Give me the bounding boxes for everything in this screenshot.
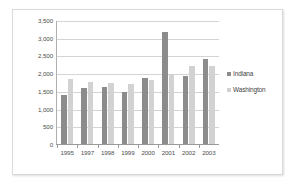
bar-washington-2002[interactable] [189, 66, 195, 145]
bar-washington-2000[interactable] [149, 80, 155, 145]
x-axis-tickmark [138, 145, 139, 148]
legend-swatch-icon [227, 72, 231, 76]
x-axis-tickmark [199, 145, 200, 148]
x-axis-tickmark [77, 145, 78, 148]
legend-label: Washington [233, 86, 266, 93]
bar-group [77, 21, 97, 145]
chart-container: 3,5003,0002,5002,0001,5001,0005000 19951… [12, 9, 283, 175]
y-axis-tick-label: 0 [25, 142, 53, 148]
bar-washington-1997[interactable] [88, 82, 94, 145]
bar-group [158, 21, 178, 145]
bar-washington-1999[interactable] [128, 84, 134, 145]
x-axis-tick-label: 2001 [158, 149, 178, 156]
x-axis-tick-label: 1995 [57, 149, 77, 156]
y-axis-tick-label: 3,000 [25, 36, 53, 42]
plot-area [57, 21, 219, 145]
bar-group [98, 21, 118, 145]
x-axis-tickmark [98, 145, 99, 148]
x-axis-tick-label: 2000 [138, 149, 158, 156]
legend-item-indiana[interactable]: Indiana [227, 70, 283, 77]
x-axis-tick-label: 1999 [118, 149, 138, 156]
y-axis: 3,5003,0002,5002,0001,5001,0005000 [25, 21, 53, 145]
y-axis-tick-label: 1,500 [25, 89, 53, 95]
y-axis-tick-label: 2,500 [25, 53, 53, 59]
x-axis: 19951997199819992000200120022003 [57, 149, 219, 156]
bars-layer [57, 21, 219, 145]
x-axis-tickmark [158, 145, 159, 148]
bar-indiana-1998[interactable] [102, 87, 108, 145]
legend-label: Indiana [233, 70, 253, 77]
y-axis-tick-label: 1,000 [25, 107, 53, 113]
bar-indiana-2002[interactable] [183, 76, 189, 145]
bar-indiana-2003[interactable] [203, 59, 209, 145]
chart-plot-wrapper: 3,5003,0002,5002,0001,5001,0005000 19951… [13, 10, 284, 176]
x-axis-tick-label: 1998 [98, 149, 118, 156]
bar-washington-1995[interactable] [68, 79, 74, 145]
bar-group [138, 21, 158, 145]
bar-washington-1998[interactable] [108, 83, 114, 145]
bar-group [199, 21, 219, 145]
y-axis-tick-label: 2,000 [25, 71, 53, 77]
bar-group [179, 21, 199, 145]
legend-item-washington[interactable]: Washington [227, 86, 283, 93]
x-axis-tickmark [118, 145, 119, 148]
bar-indiana-1997[interactable] [81, 88, 87, 145]
bar-indiana-1999[interactable] [122, 92, 128, 145]
bar-group [57, 21, 77, 145]
x-axis-tick-label: 1997 [77, 149, 97, 156]
legend-swatch-icon [227, 88, 231, 92]
bar-washington-2001[interactable] [169, 74, 175, 145]
x-axis-tickmark [179, 145, 180, 148]
bar-indiana-1995[interactable] [61, 95, 67, 145]
x-axis-tick-label: 2002 [179, 149, 199, 156]
x-axis-line [56, 144, 219, 145]
y-axis-tick-label: 500 [25, 124, 53, 130]
x-axis-tickmark [57, 145, 58, 148]
y-axis-tick-label: 3,500 [25, 18, 53, 24]
x-axis-tick-label: 2003 [199, 149, 219, 156]
bar-washington-2003[interactable] [209, 66, 215, 145]
bar-indiana-2001[interactable] [162, 32, 168, 145]
bar-group [118, 21, 138, 145]
bar-indiana-2000[interactable] [142, 78, 148, 145]
chart-legend: IndianaWashington [227, 70, 283, 102]
